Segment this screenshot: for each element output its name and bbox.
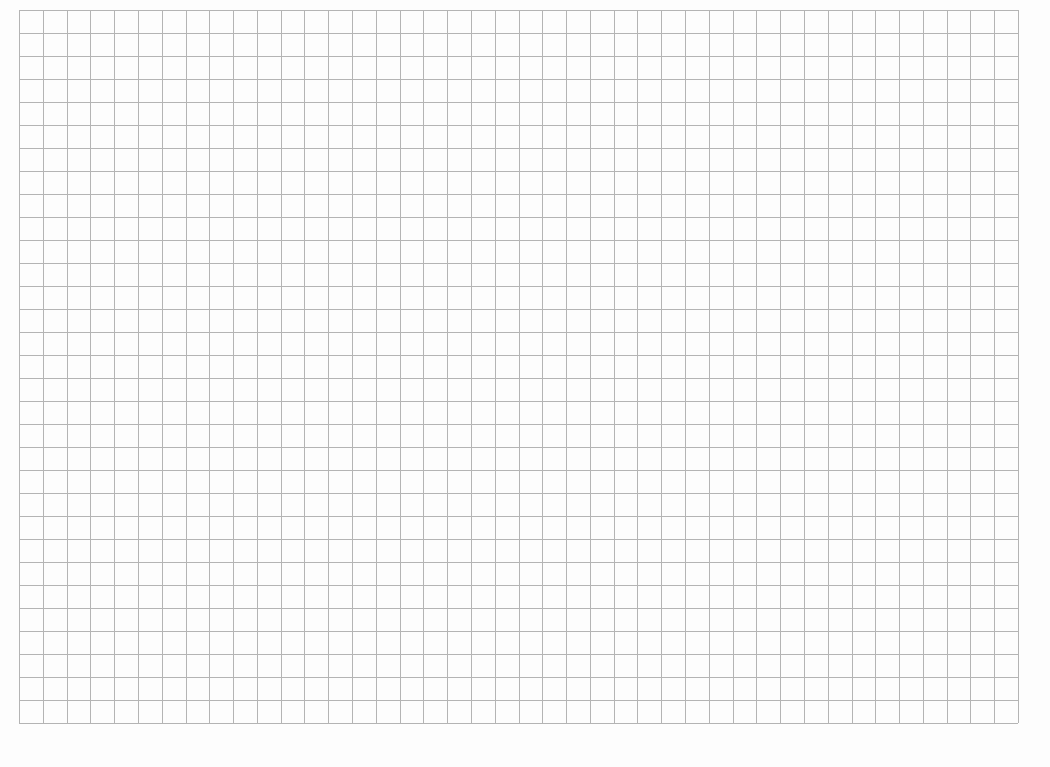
grid-lines: [19, 10, 1018, 723]
graph-paper-page: [0, 0, 1050, 767]
grid: [19, 10, 1018, 723]
